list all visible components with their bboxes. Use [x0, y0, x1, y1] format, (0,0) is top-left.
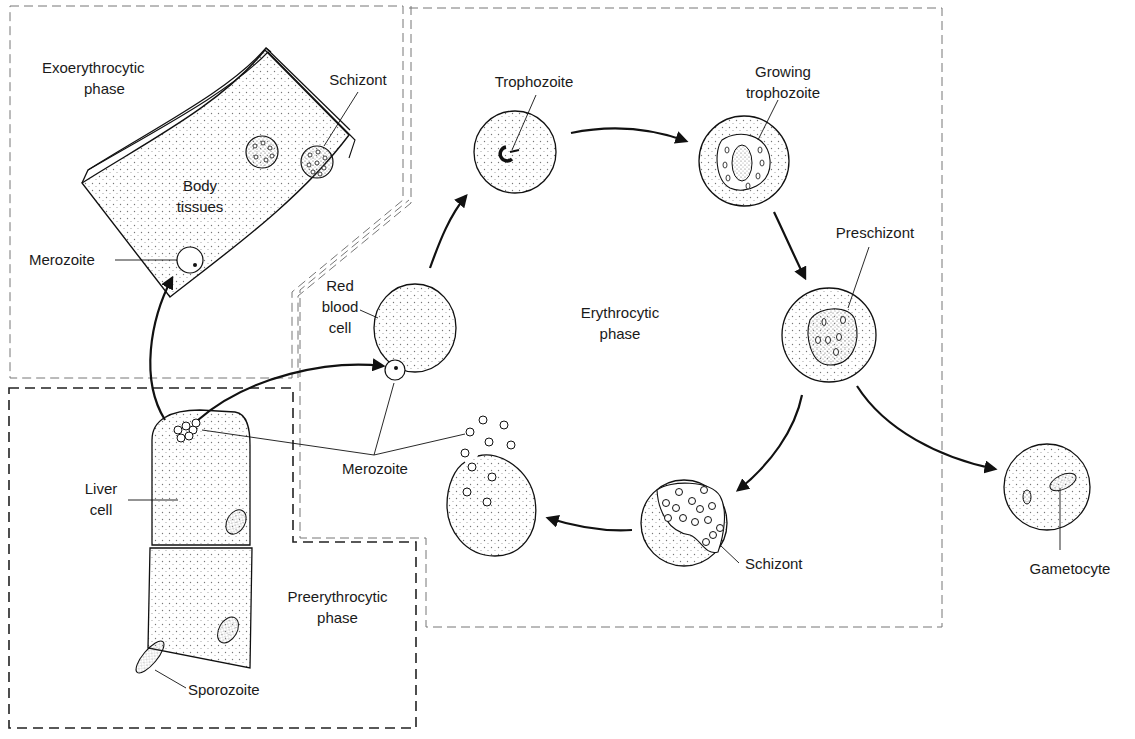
tissue-merozoite [177, 247, 203, 273]
arrow-liver-to-tissue [150, 278, 172, 420]
tissue-merozoite-label: Merozoite [29, 249, 119, 270]
sporozoite-label: Sporozoite [188, 679, 288, 700]
arrow-troph-to-growing [571, 129, 686, 141]
exoerythrocytic-phase-label: Exoerythrocytic phase [42, 57, 182, 99]
liver-cell-label: Liver cell [66, 478, 136, 520]
erythrocytic-line1: Erythrocytic [560, 302, 680, 323]
exoerythrocytic-line1: Exoerythrocytic [42, 57, 182, 78]
rbc-line3: cell [310, 317, 370, 338]
tissue-schizont-label: Schizont [318, 69, 398, 90]
rbc-line1: Red [310, 275, 370, 296]
growing-troph-line2: trophozoite [728, 82, 838, 103]
erythrocytic-line2: phase [560, 323, 680, 344]
liver-cell-line2: cell [66, 499, 136, 520]
tissue-schizont-1 [246, 136, 278, 168]
preschizont-label: Preschizont [825, 222, 925, 243]
gametocyte-cell [1004, 444, 1090, 530]
body-tissues-label: Body tissues [160, 175, 240, 217]
preschizont-cell [782, 288, 876, 382]
liver-cell-line1: Liver [66, 478, 136, 499]
diagram-canvas [0, 0, 1135, 739]
blood-schizont-cell [641, 480, 727, 566]
liver-cells [132, 410, 252, 677]
arrow-growing-to-preschizont [774, 212, 805, 278]
trophozoite-label: Trophozoite [484, 71, 584, 92]
growing-trophozoite-cell [699, 116, 789, 206]
growing-trophozoite-label: Growing trophozoite [728, 61, 838, 103]
gametocyte-label: Gametocyte [1020, 558, 1120, 579]
body-tissues-line1: Body [160, 175, 240, 196]
arrow-preschizont-to-schizont [738, 395, 802, 490]
red-blood-cell [374, 284, 456, 380]
erythrocytic-phase-label: Erythrocytic phase [560, 302, 680, 344]
exoerythrocytic-line2: phase [42, 78, 182, 99]
preerythrocytic-line1: Preerythrocytic [265, 586, 410, 607]
ruptured-rbc [447, 416, 536, 556]
blood-schizont-label: Schizont [745, 553, 835, 574]
arrow-preschizont-to-gametocyte [857, 386, 995, 469]
trophozoite-cell [474, 111, 556, 193]
malaria-life-cycle-diagram: Exoerythrocytic phase Schizont Body tiss… [0, 0, 1135, 739]
red-blood-cell-label: Red blood cell [310, 275, 370, 338]
preerythrocytic-line2: phase [265, 607, 410, 628]
preerythrocytic-phase-label: Preerythrocytic phase [265, 586, 410, 628]
growing-troph-line1: Growing [728, 61, 838, 82]
arrow-rbc-to-trophozoite [430, 196, 466, 268]
shared-merozoite-label: Merozoite [330, 458, 420, 479]
body-tissues-line2: tissues [160, 196, 240, 217]
rbc-line2: blood [310, 296, 370, 317]
arrow-schizont-to-merozoites [548, 518, 632, 530]
